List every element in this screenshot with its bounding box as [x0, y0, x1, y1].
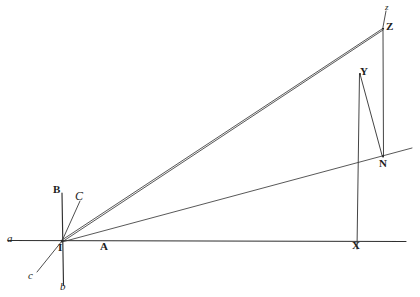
- label-c-point: C: [75, 190, 83, 202]
- label-c-axis: c: [28, 270, 33, 281]
- label-i-origin: I: [58, 242, 62, 253]
- vertex-dot-z: [382, 27, 384, 29]
- geometric-diagram-figure: a B b c C I A X Y N Z z: [0, 0, 420, 297]
- label-b-point: B: [53, 184, 60, 195]
- label-n-point: N: [379, 158, 387, 169]
- segment-z-to-n-line: [383, 29, 384, 157]
- segment-y-to-n-line: [360, 74, 383, 157]
- ray-to-c-point-line: [62, 201, 80, 241]
- label-b-axis: b: [60, 281, 66, 292]
- label-y-point: Y: [360, 66, 368, 77]
- label-x-point: X: [352, 240, 360, 251]
- ray-i-through-y-line: [62, 30, 383, 242]
- label-z-small: z: [385, 3, 389, 12]
- label-z-point: Z: [386, 21, 393, 32]
- label-a-point: A: [100, 241, 108, 252]
- diagram-canvas: [0, 0, 420, 297]
- segment-y-to-x-line: [357, 74, 360, 249]
- label-a-axis: a: [7, 233, 13, 244]
- ray-i-to-z-line: [62, 29, 382, 240]
- ray-i-to-n-extended-line: [62, 148, 412, 242]
